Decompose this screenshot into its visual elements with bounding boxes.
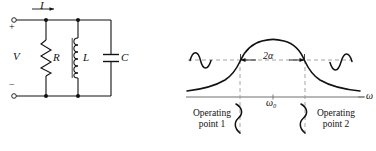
squiggle-bracket-right: [300, 104, 306, 133]
negative-terminal-icon: [12, 94, 17, 99]
operating-point-2-line1: Operating: [308, 108, 364, 119]
resistor-label: R: [53, 52, 60, 64]
node-dot: [44, 18, 48, 22]
omega-axis-label: ω: [366, 91, 373, 102]
resonance-curve: [187, 39, 360, 91]
plus-terminal-label: +: [9, 22, 15, 33]
coil-inductor-icon: [72, 38, 78, 78]
capacitor-label: C: [121, 52, 128, 64]
node-dot: [76, 18, 80, 22]
figure-root: I + − V R L C 2α ω₀ ω Operating point 1 …: [0, 0, 376, 151]
current-label: I: [40, 0, 44, 12]
minus-terminal-label: −: [9, 80, 15, 91]
operating-point-1-line1: Operating: [186, 108, 238, 119]
inductor-label: L: [83, 52, 89, 64]
bandwidth-label: 2α: [263, 51, 273, 62]
source-voltage-label: V: [13, 51, 20, 63]
node-dot: [76, 94, 80, 98]
parallel-plate-capacitor-icon: [103, 55, 119, 62]
operating-point-2-label: Operating point 2: [308, 108, 364, 130]
zigzag-resistor-icon: [41, 40, 51, 76]
operating-point-1-label: Operating point 1: [186, 108, 238, 130]
operating-point-1-line2: point 1: [186, 119, 238, 130]
sine-inset-right: [330, 54, 352, 70]
sine-inset-left: [190, 53, 211, 68]
operating-point-2-line2: point 2: [308, 119, 364, 130]
center-frequency-label: ω₀: [266, 98, 277, 109]
parallel-rlc-circuit: [12, 7, 119, 98]
node-dot: [44, 94, 48, 98]
